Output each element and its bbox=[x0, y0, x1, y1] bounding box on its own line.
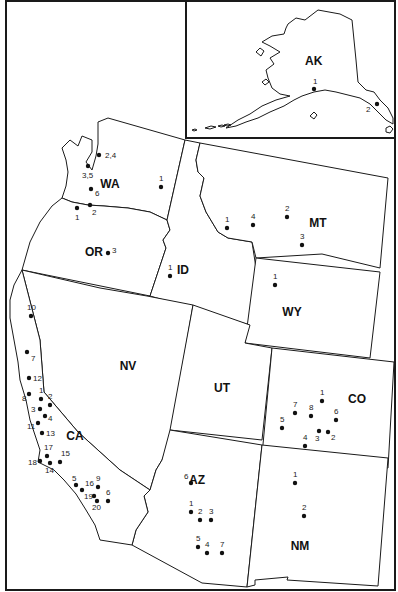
site-number: 18 bbox=[28, 458, 37, 467]
site-dot-icon bbox=[302, 514, 306, 518]
state-label-ut: UT bbox=[214, 381, 231, 395]
site-dot-icon bbox=[251, 223, 255, 227]
site-dot-icon bbox=[320, 399, 324, 403]
site-dot-icon bbox=[159, 185, 163, 189]
state-wy bbox=[245, 258, 380, 358]
site-map: WAORIDMTWYNVUTCOCAAZNM 2,43,561123114231… bbox=[0, 0, 398, 592]
site-dot-icon bbox=[189, 481, 193, 485]
site-dot-icon bbox=[97, 153, 101, 157]
site-number: 2 bbox=[302, 503, 307, 512]
site-number: 2 bbox=[331, 433, 336, 442]
site-number: 4 bbox=[205, 540, 210, 549]
site-dot-icon bbox=[86, 164, 90, 168]
site-dot-icon bbox=[58, 460, 62, 464]
site-dot-icon bbox=[45, 454, 49, 458]
site-dot-icon bbox=[25, 350, 29, 354]
site-number: 9 bbox=[96, 474, 101, 483]
site-number: 19 bbox=[84, 492, 93, 501]
site-number: 3 bbox=[31, 405, 36, 414]
site-number: 2 bbox=[366, 105, 371, 114]
site-number: 13 bbox=[46, 429, 55, 438]
site-number: 6 bbox=[95, 189, 100, 198]
state-label-wy: WY bbox=[282, 305, 301, 319]
site-dot-icon bbox=[88, 203, 92, 207]
site-number: 3 bbox=[315, 434, 320, 443]
site-number: 7 bbox=[293, 400, 298, 409]
site-dot-icon bbox=[168, 274, 172, 278]
site-dot-icon bbox=[96, 485, 100, 489]
site-dot-icon bbox=[38, 407, 42, 411]
western-states bbox=[10, 118, 394, 587]
site-number: 6 bbox=[184, 472, 189, 481]
site-dot-icon bbox=[106, 499, 110, 503]
site-number: 11 bbox=[27, 422, 36, 431]
site-number: 20 bbox=[92, 503, 101, 512]
site-dot-icon bbox=[293, 481, 297, 485]
site-number: 1 bbox=[313, 77, 318, 86]
state-label-or: OR bbox=[85, 245, 103, 259]
state-label-wa: WA bbox=[100, 177, 120, 191]
site-dot-icon bbox=[375, 102, 379, 106]
site-number: 7 bbox=[220, 540, 225, 549]
site-dot-icon bbox=[196, 545, 200, 549]
site-dot-icon bbox=[89, 187, 93, 191]
site-marker: 18 bbox=[28, 458, 42, 467]
site-number: 1 bbox=[293, 470, 298, 479]
site-dot-icon bbox=[27, 376, 31, 380]
site-number: 2 bbox=[48, 392, 53, 401]
state-label-nm: NM bbox=[291, 539, 310, 553]
site-number: 1 bbox=[75, 213, 80, 222]
site-number: 14 bbox=[45, 466, 54, 475]
site-number: 8 bbox=[22, 394, 27, 403]
site-number: 5 bbox=[196, 534, 201, 543]
alaska-inset bbox=[186, 1, 395, 138]
site-dot-icon bbox=[38, 459, 42, 463]
site-dot-icon bbox=[43, 414, 47, 418]
site-number: 3 bbox=[209, 507, 214, 516]
site-dot-icon bbox=[27, 392, 31, 396]
site-dot-icon bbox=[29, 314, 33, 318]
site-dot-icon bbox=[225, 226, 229, 230]
site-dot-icon bbox=[312, 87, 316, 91]
state-label-ca: CA bbox=[66, 429, 84, 443]
site-number: 8 bbox=[309, 403, 314, 412]
site-dot-icon bbox=[280, 426, 284, 430]
state-label-nv: NV bbox=[120, 359, 137, 373]
site-number: 15 bbox=[61, 449, 70, 458]
site-number: 2 bbox=[285, 204, 290, 213]
site-dot-icon bbox=[189, 510, 193, 514]
site-number: 10 bbox=[27, 303, 36, 312]
site-dot-icon bbox=[106, 251, 110, 255]
site-dot-icon bbox=[39, 397, 43, 401]
state-label-ak: AK bbox=[305, 54, 323, 68]
site-dot-icon bbox=[300, 243, 304, 247]
site-dot-icon bbox=[293, 411, 297, 415]
site-dot-icon bbox=[334, 418, 338, 422]
site-dot-icon bbox=[209, 518, 213, 522]
site-dot-icon bbox=[75, 206, 79, 210]
site-number: 3,5 bbox=[82, 171, 94, 180]
site-number: 6 bbox=[334, 407, 339, 416]
site-number: 5 bbox=[72, 474, 77, 483]
state-label-id: ID bbox=[177, 263, 189, 277]
site-number: 6 bbox=[106, 488, 111, 497]
site-dot-icon bbox=[48, 461, 52, 465]
site-number: 2 bbox=[198, 507, 203, 516]
site-dot-icon bbox=[40, 431, 44, 435]
site-number: 16 bbox=[85, 479, 94, 488]
site-number: 3 bbox=[300, 232, 305, 241]
site-dot-icon bbox=[220, 551, 224, 555]
site-number: 7 bbox=[31, 354, 36, 363]
site-number: 1 bbox=[225, 215, 230, 224]
site-dot-icon bbox=[198, 518, 202, 522]
site-dot-icon bbox=[285, 215, 289, 219]
site-dot-icon bbox=[205, 551, 209, 555]
site-number: 5 bbox=[280, 415, 285, 424]
site-dot-icon bbox=[48, 403, 52, 407]
site-dot-icon bbox=[303, 444, 307, 448]
site-dot-icon bbox=[309, 414, 313, 418]
site-dot-icon bbox=[317, 429, 321, 433]
site-number: 1 bbox=[320, 388, 325, 397]
site-number: 2 bbox=[92, 208, 97, 217]
site-number: 1 bbox=[168, 263, 173, 272]
